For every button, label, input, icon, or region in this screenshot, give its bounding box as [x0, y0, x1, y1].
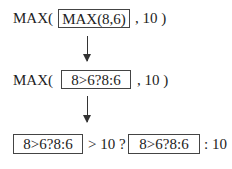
- arrow-down-icon: [87, 96, 88, 122]
- arrow-down-icon: [87, 36, 88, 61]
- row2-box: 8>6?8:6: [61, 70, 131, 89]
- row1-box: MAX(8,6): [58, 9, 130, 28]
- row2-suffix: , 10 ): [137, 71, 168, 89]
- row3-box-condition: 8>6?8:6: [13, 134, 83, 154]
- row3-box-true: 8>6?8:6: [128, 134, 200, 154]
- row3-suffix: : 10: [204, 135, 227, 153]
- row1-suffix: , 10 ): [135, 9, 166, 27]
- row1-prefix: MAX(: [13, 9, 53, 27]
- row2-prefix: MAX(: [13, 71, 53, 89]
- row3-mid: > 10 ?: [88, 135, 126, 153]
